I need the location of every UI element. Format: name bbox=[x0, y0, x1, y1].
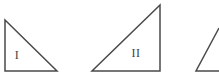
figure-background bbox=[0, 0, 219, 78]
triangles-figure: I II bbox=[0, 0, 219, 78]
triangle-two-label: II bbox=[132, 47, 141, 59]
triangle-one-label: I bbox=[15, 49, 20, 61]
figure-canvas bbox=[0, 0, 219, 78]
